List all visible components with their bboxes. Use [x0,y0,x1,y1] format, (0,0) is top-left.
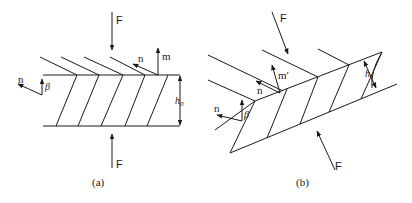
n-vector-label-top-a: n [138,52,144,64]
n-vector-label-left-a: n [18,73,24,85]
panel-caption-b: (b) [296,176,309,189]
force-label-top-b: F [280,12,287,24]
thickness-label-a: h0 [175,95,184,108]
thickness-label-b: h [365,68,370,79]
n-vector-label-left-b: n [214,102,220,114]
beta-label-b: β [243,109,249,120]
panel-caption-a: (a) [92,176,105,189]
fins-a [40,57,145,75]
panel-b: F F m′ n n β h (b) [208,12,397,189]
lamellae-a [56,75,168,126]
n-vector-label-top-b: n [257,84,263,96]
beta-label-a: β [44,81,50,92]
panel-a: F F m n n β h0 (a) [18,12,184,189]
diagram-canvas: F F m n n β h0 (a) [0,0,412,203]
m-prime-vector-label-b: m′ [278,69,289,81]
slab-bottom-edge-b [230,84,397,153]
n-vector-arrow-top-a [133,64,158,75]
force-label-bottom-b: F [335,160,342,172]
force-label-top-a: F [116,14,123,26]
m-vector-label-a: m [162,50,171,62]
force-arrow-bottom-b [317,131,335,170]
force-label-bottom-a: F [116,158,123,170]
n-vector-arrow-left-a [18,84,42,95]
